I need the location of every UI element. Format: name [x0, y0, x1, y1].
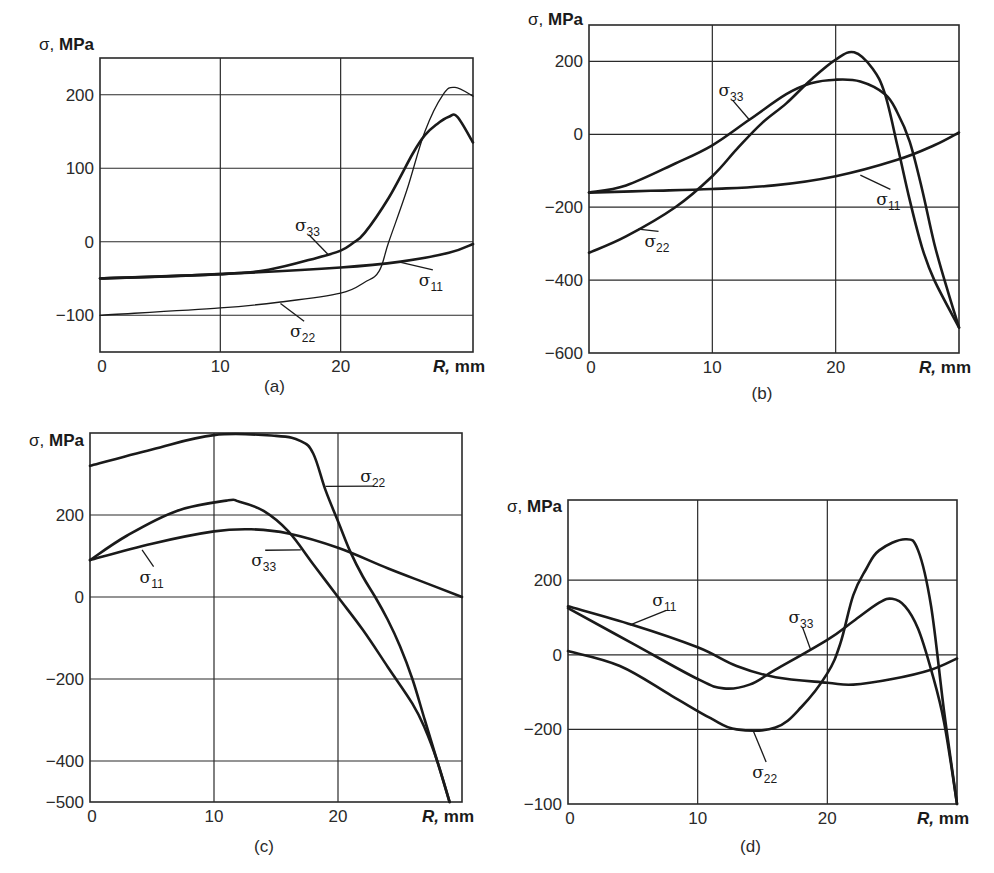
x-axis-unit: mm — [939, 809, 969, 828]
y-tick-label: 0 — [553, 646, 562, 665]
x-axis-symbol: R, — [917, 809, 939, 828]
series-leader-11 — [630, 610, 666, 625]
x-tick-label: 10 — [688, 809, 707, 828]
y-tick-label: −200 — [524, 720, 562, 739]
chart-d: 010202000−200−100σ, MPaR, mm(d)σ11σ33σ22 — [0, 0, 994, 873]
x-tick-label: 20 — [818, 809, 837, 828]
y-axis-symbol: σ, — [507, 497, 527, 516]
y-axis-label: σ, MPa — [507, 497, 562, 516]
series-label-11: σ11 — [652, 590, 676, 614]
y-tick-label: −100 — [524, 795, 562, 814]
series-leader-22 — [753, 731, 766, 762]
plot-frame — [568, 500, 957, 804]
y-axis-unit: MPa — [527, 497, 563, 516]
series-label-22: σ22 — [752, 762, 777, 786]
panel-label: (d) — [740, 837, 761, 856]
x-tick-label: 0 — [565, 809, 574, 828]
x-axis-label: R, mm — [917, 809, 969, 828]
y-tick-label: 200 — [534, 571, 562, 590]
series-label-33: σ33 — [788, 607, 813, 631]
series-line-11 — [568, 606, 957, 685]
